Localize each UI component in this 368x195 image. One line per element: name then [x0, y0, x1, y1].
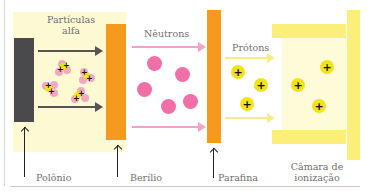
- alpha-particle: + +: [42, 81, 60, 99]
- proton: +: [312, 99, 326, 113]
- beryllium-label: Berílio: [130, 172, 162, 183]
- alpha-particle: + +: [71, 87, 89, 105]
- proton-plus: +: [314, 101, 323, 112]
- proton-plus: +: [256, 80, 265, 91]
- alpha-label-line2: alfa: [40, 25, 102, 36]
- alpha-arrow-bottom: [38, 106, 96, 108]
- neutron-arrow-bottom: [132, 126, 199, 128]
- neutron: [175, 67, 190, 82]
- proton-plus: +: [233, 67, 242, 78]
- chamber-label: Câmara de ionização: [286, 161, 348, 183]
- proton: +: [254, 78, 268, 92]
- chamber-back-wall: [347, 10, 360, 160]
- paraffin-label: Parafina: [218, 172, 258, 183]
- beryllium-target: [106, 24, 126, 140]
- alpha-plus: +: [48, 88, 55, 96]
- proton-arrow-bottom: [225, 117, 268, 119]
- frame-left-border: [4, 0, 5, 186]
- alpha-particle: + +: [54, 60, 72, 78]
- alpha-arrow-top: [38, 50, 96, 52]
- chamber-top-plate: [272, 24, 346, 38]
- beryllium-pointer-arrow: [117, 145, 118, 177]
- alpha-particle: + +: [79, 68, 97, 86]
- neutron: [137, 82, 152, 97]
- paraffin-target: [207, 10, 221, 143]
- chamber-label-line2: ionização: [286, 172, 348, 183]
- protons-label: Prótons: [232, 42, 269, 53]
- frame-bottom-border: [10, 186, 360, 187]
- proton-plus: +: [242, 99, 251, 110]
- alpha-label-line1: Partículas: [40, 14, 102, 25]
- proton: +: [240, 97, 254, 111]
- alpha-plus: +: [78, 90, 85, 98]
- proton-plus: +: [293, 80, 302, 91]
- alpha-plus: +: [63, 62, 70, 70]
- neutron: [161, 99, 176, 114]
- proton: +: [231, 65, 245, 79]
- polonium-pointer-arrow: [24, 127, 25, 177]
- alpha-plus: +: [86, 75, 93, 83]
- paraffin-pointer-arrow: [213, 148, 214, 178]
- proton-arrow-top: [225, 57, 268, 59]
- polonium-source: [14, 38, 34, 122]
- alpha-label: Partículas alfa: [40, 14, 102, 36]
- neutron: [147, 56, 162, 71]
- chamber-label-line1: Câmara de: [286, 161, 348, 172]
- proton: +: [291, 78, 305, 92]
- proton: +: [320, 60, 334, 74]
- proton-plus: +: [322, 62, 331, 73]
- neutron-arrow-top: [132, 46, 199, 48]
- neutron: [183, 94, 198, 109]
- polonium-label: Polônio: [36, 172, 71, 183]
- neutrons-label: Nêutrons: [144, 28, 189, 39]
- chamber-bottom-plate: [272, 130, 346, 144]
